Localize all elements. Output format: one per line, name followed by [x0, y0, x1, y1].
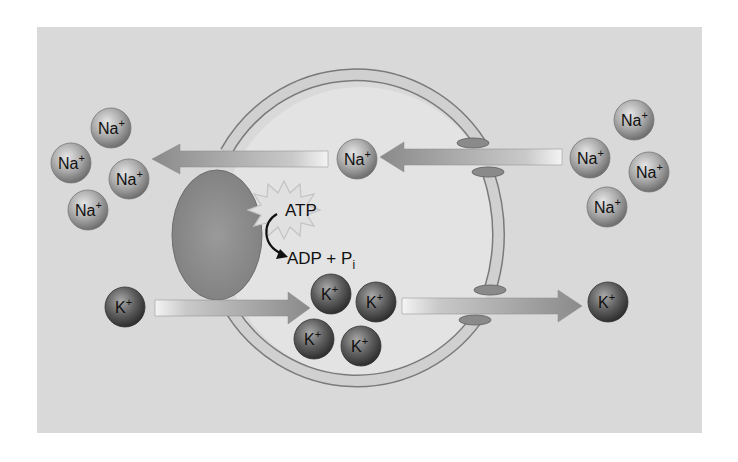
- channel-cap-na-lower: [472, 167, 504, 177]
- na-ions-inside: Na+: [337, 139, 377, 179]
- sodium-ion: Na+: [629, 152, 669, 192]
- adp-pi-main-text: ADP + P: [287, 249, 352, 268]
- potassium-ion: K+: [105, 287, 145, 327]
- sodium-ion: Na+: [68, 190, 108, 230]
- sodium-ion: Na+: [614, 100, 654, 140]
- k-ions-outside-left: K+: [105, 287, 145, 327]
- potassium-ion: K+: [311, 274, 351, 314]
- sodium-ion: Na+: [587, 187, 627, 227]
- k-ions-outside-right: K+: [588, 282, 628, 322]
- sodium-potassium-pump-protein: [172, 170, 262, 300]
- sodium-ion: Na+: [109, 159, 149, 199]
- channel-cap-k-lower: [459, 315, 491, 325]
- potassium-ion: K+: [356, 282, 396, 322]
- sodium-ion: Na+: [51, 143, 91, 183]
- potassium-ion: K+: [294, 319, 334, 359]
- atp-label: ATP: [285, 201, 317, 220]
- sodium-ion: Na+: [91, 108, 131, 148]
- channel-cap-na-upper: [457, 138, 489, 148]
- sodium-ion: Na+: [570, 138, 610, 178]
- sodium-potassium-pump-diagram: ATP ADP + Pi Na+Na+Na+Na+ Na+ Na+Na+Na+N…: [0, 0, 738, 462]
- potassium-ion: K+: [588, 282, 628, 322]
- pi-subscript: i: [352, 258, 355, 272]
- potassium-ion: K+: [341, 326, 381, 366]
- sodium-ion: Na+: [337, 139, 377, 179]
- channel-cap-k-upper: [474, 285, 506, 295]
